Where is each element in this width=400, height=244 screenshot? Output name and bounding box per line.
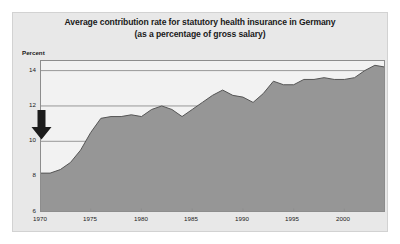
x-tick-1995: 1995 — [277, 215, 307, 222]
y-axis-label: Percent — [22, 49, 45, 56]
down-arrow-icon — [31, 110, 52, 140]
y-tick-8: 8 — [22, 171, 36, 178]
area-chart-svg — [40, 60, 385, 212]
plot-area — [40, 60, 385, 212]
x-tick-1970: 1970 — [25, 215, 55, 222]
y-tick-14: 14 — [22, 66, 36, 73]
chart-subtitle: (as a percentage of gross salary) — [12, 29, 388, 41]
chart-root: Average contribution rate for statutory … — [0, 0, 400, 244]
x-tick-1980: 1980 — [126, 215, 156, 222]
chart-title: Average contribution rate for statutory … — [12, 17, 388, 29]
y-tick-12: 12 — [22, 101, 36, 108]
x-tick-1985: 1985 — [176, 215, 206, 222]
y-tick-6: 6 — [22, 207, 36, 214]
x-tick-1990: 1990 — [227, 215, 257, 222]
chart-title-block: Average contribution rate for statutory … — [12, 17, 388, 40]
x-tick-2000: 2000 — [328, 215, 358, 222]
x-tick-1975: 1975 — [75, 215, 105, 222]
